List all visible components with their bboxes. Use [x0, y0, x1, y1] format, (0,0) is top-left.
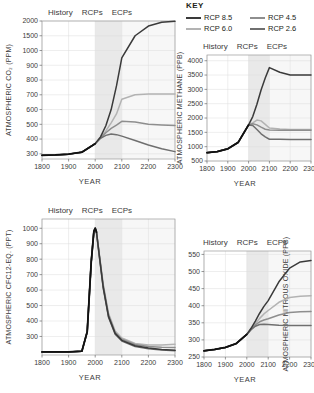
- svg-text:3500: 3500: [187, 71, 203, 78]
- svg-text:1800: 1800: [199, 165, 215, 172]
- svg-text:1500: 1500: [187, 129, 203, 136]
- svg-text:500: 500: [188, 268, 200, 275]
- svg-text:2100: 2100: [260, 361, 276, 368]
- svg-text:900: 900: [26, 62, 38, 69]
- svg-text:1000: 1000: [22, 225, 38, 232]
- period-labels: History RCPs ECPs: [176, 238, 314, 247]
- chart-panel-n2o: History RCPs ECPs 2503003504004505005501…: [176, 238, 314, 393]
- svg-text:700: 700: [26, 271, 38, 278]
- svg-text:ATMOSPHERIC NITROUS OXIDE (PPB: ATMOSPHERIC NITROUS OXIDE (PPB): [282, 237, 290, 372]
- svg-text:ATMOSPHERIC METHANE (PPB): ATMOSPHERIC METHANE (PPB): [176, 52, 184, 165]
- legend-item-rcp26: RCP 2.6: [250, 24, 314, 33]
- period-label-rcps: RCPs: [237, 238, 258, 247]
- plot-area-co2: 3004005006007008009001000150020001800190…: [2, 17, 178, 177]
- svg-text:1900: 1900: [61, 163, 77, 170]
- svg-text:300: 300: [188, 336, 200, 343]
- svg-text:3000: 3000: [187, 86, 203, 93]
- svg-text:1000: 1000: [22, 47, 38, 54]
- svg-text:4000: 4000: [187, 57, 203, 64]
- period-label-history: History: [203, 238, 228, 247]
- period-label-history: History: [203, 42, 228, 51]
- chart-svg-co2: 3004005006007008009001000150020001800190…: [2, 17, 178, 177]
- svg-text:2100: 2100: [114, 163, 130, 170]
- svg-text:2100: 2100: [262, 165, 278, 172]
- x-axis-title: YEAR: [2, 373, 178, 382]
- svg-text:400: 400: [26, 135, 38, 142]
- legend-swatch-icon: [250, 28, 265, 30]
- svg-text:2000: 2000: [239, 361, 255, 368]
- svg-text:1900: 1900: [61, 359, 77, 366]
- svg-text:300: 300: [26, 333, 38, 340]
- period-labels: History RCPs ECPs: [176, 42, 314, 51]
- period-labels: History RCPs ECPs: [2, 8, 178, 17]
- period-label-history: History: [48, 206, 73, 215]
- legend-swatch-icon: [250, 17, 265, 19]
- svg-text:2100: 2100: [114, 359, 130, 366]
- legend-label: RCP 2.6: [268, 24, 296, 33]
- chart-panel-cfc12eq: History RCPs ECPs 3004005006007008009001…: [2, 206, 178, 392]
- svg-text:600: 600: [26, 286, 38, 293]
- legend-label: RCP 8.5: [204, 13, 232, 22]
- period-label-rcps: RCPs: [82, 8, 103, 17]
- svg-text:2000: 2000: [187, 114, 203, 121]
- svg-text:550: 550: [188, 251, 200, 258]
- svg-text:2000: 2000: [241, 165, 257, 172]
- svg-text:1900: 1900: [218, 361, 234, 368]
- chart-svg-ch4: 5001000150020002500300035004000180019002…: [176, 51, 314, 179]
- legend-key: KEY RCP 8.5 RCP 4.5 RCP 6.0 RCP 2.6: [186, 1, 314, 35]
- legend-label: RCP 4.5: [268, 13, 296, 22]
- svg-text:2200: 2200: [141, 163, 157, 170]
- svg-text:ATMOSPHERIC CFC12-EQ. (PPT): ATMOSPHERIC CFC12-EQ. (PPT): [5, 230, 13, 345]
- legend-title: KEY: [186, 1, 314, 10]
- svg-text:ATMOSPHERIC CO₂ (PPM): ATMOSPHERIC CO₂ (PPM): [5, 44, 13, 136]
- svg-text:2000: 2000: [87, 163, 103, 170]
- svg-text:1800: 1800: [34, 163, 50, 170]
- period-label-rcps: RCPs: [82, 206, 103, 215]
- svg-text:1800: 1800: [34, 359, 50, 366]
- legend-item-rcp45: RCP 4.5: [250, 13, 314, 22]
- svg-text:2200: 2200: [141, 359, 157, 366]
- svg-text:250: 250: [188, 353, 200, 360]
- legend-swatch-icon: [186, 17, 201, 19]
- period-label-history: History: [48, 8, 73, 17]
- svg-text:400: 400: [26, 317, 38, 324]
- svg-text:2200: 2200: [282, 165, 298, 172]
- x-axis-title: YEAR: [176, 375, 314, 384]
- chart-panel-co2: History RCPs ECPs 3004005006007008009001…: [2, 8, 178, 194]
- svg-text:500: 500: [26, 302, 38, 309]
- plot-area-ch4: 5001000150020002500300035004000180019002…: [176, 51, 314, 179]
- svg-text:800: 800: [26, 256, 38, 263]
- svg-text:700: 700: [26, 91, 38, 98]
- period-label-ecps: ECPs: [112, 206, 132, 215]
- chart-svg-cfc12eq: 3004005006007008009001000180019002000210…: [2, 215, 178, 373]
- legend-label: RCP 6.0: [204, 24, 232, 33]
- svg-text:2300: 2300: [303, 165, 314, 172]
- svg-text:1000: 1000: [187, 143, 203, 150]
- legend-item-rcp60: RCP 6.0: [186, 24, 250, 33]
- svg-text:300: 300: [26, 150, 38, 157]
- x-axis-title: YEAR: [2, 177, 178, 186]
- svg-text:1800: 1800: [196, 361, 212, 368]
- svg-text:2300: 2300: [303, 361, 314, 368]
- svg-text:500: 500: [26, 121, 38, 128]
- svg-text:450: 450: [188, 285, 200, 292]
- svg-text:2500: 2500: [187, 100, 203, 107]
- svg-text:350: 350: [188, 319, 200, 326]
- legend-item-rcp85: RCP 8.5: [186, 13, 250, 22]
- chart-svg-n2o: 2503003504004505005501800190020002100220…: [176, 247, 314, 375]
- period-label-ecps: ECPs: [112, 8, 132, 17]
- svg-text:800: 800: [26, 76, 38, 83]
- period-labels: History RCPs ECPs: [2, 206, 178, 215]
- x-axis-title: YEAR: [176, 179, 314, 188]
- plot-area-cfc12eq: 3004005006007008009001000180019002000210…: [2, 215, 178, 373]
- period-label-rcps: RCPs: [237, 42, 258, 51]
- svg-text:600: 600: [26, 106, 38, 113]
- svg-text:2000: 2000: [87, 359, 103, 366]
- svg-text:400: 400: [188, 302, 200, 309]
- svg-text:2000: 2000: [22, 17, 38, 24]
- svg-text:1900: 1900: [220, 165, 236, 172]
- chart-panel-ch4: History RCPs ECPs 5001000150020002500300…: [176, 42, 314, 194]
- period-label-ecps: ECPs: [267, 42, 287, 51]
- plot-area-n2o: 2503003504004505005501800190020002100220…: [176, 247, 314, 375]
- svg-text:1500: 1500: [22, 32, 38, 39]
